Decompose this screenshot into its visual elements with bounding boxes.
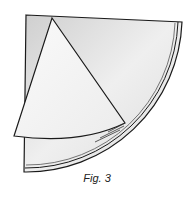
folded-paper-diagram xyxy=(0,0,190,198)
figure-caption: Fig. 3 xyxy=(0,172,190,184)
